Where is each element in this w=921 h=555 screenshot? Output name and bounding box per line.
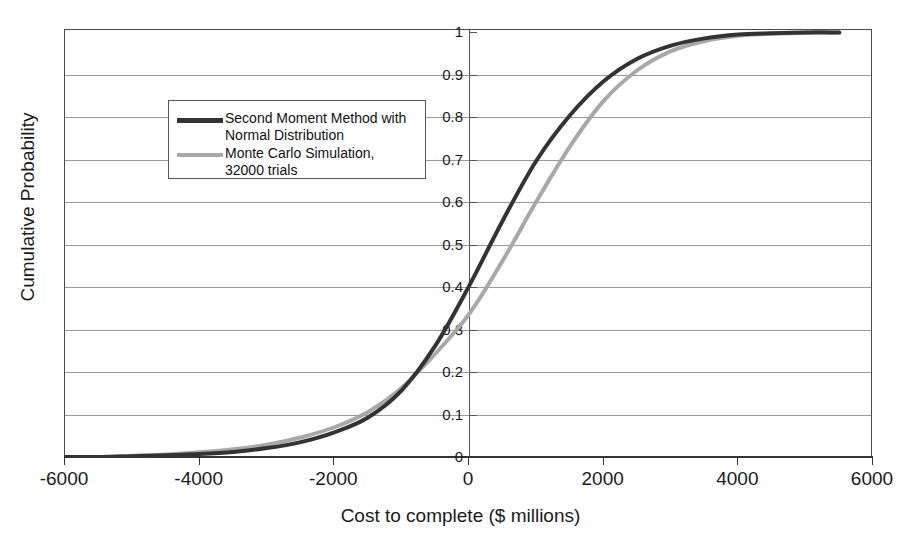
plot-area: Second Moment Method with Normal Distrib… <box>64 29 872 457</box>
chart-screenshot: Second Moment Method with Normal Distrib… <box>0 0 921 555</box>
legend-label-monte-carlo: Monte Carlo Simulation, 32000 trials <box>225 145 374 179</box>
legend-label-second-moment: Second Moment Method with Normal Distrib… <box>225 110 406 144</box>
series-line <box>65 32 839 457</box>
x-tick-label: 6000 <box>851 468 893 490</box>
legend-entry-0: Second Moment Method with Normal Distrib… <box>177 110 406 144</box>
x-axis-title: Cost to complete ($ millions) <box>0 505 921 527</box>
legend-entry-1: Monte Carlo Simulation, 32000 trials <box>177 145 374 179</box>
y-axis-title: Cumulative Probability <box>17 47 39 367</box>
legend-swatch-second-moment <box>177 118 223 123</box>
x-tick-label: 0 <box>463 468 474 490</box>
legend: Second Moment Method with Normal Distrib… <box>168 100 426 179</box>
series-curves <box>65 30 873 458</box>
x-tick-label: -6000 <box>40 468 89 490</box>
x-tick-label: -2000 <box>309 468 358 490</box>
series-line <box>65 32 839 457</box>
legend-swatch-monte-carlo <box>177 153 223 157</box>
x-tick-label: -4000 <box>174 468 223 490</box>
x-tick-label: 4000 <box>716 468 758 490</box>
x-tick-label: 2000 <box>582 468 624 490</box>
